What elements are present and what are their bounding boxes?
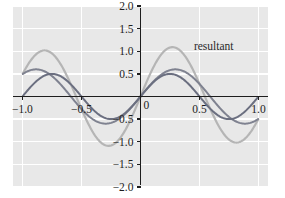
y-tick-label: −1.5 [113,158,134,170]
x-tick-label: 0.5 [192,103,207,115]
y-tick-label: −1.0 [113,136,134,148]
origin-tick-label: 0 [144,99,150,111]
chart-figure: −1.0−0.50.51.0 −2.0−1.5−1.0−0.50.51.01.5… [0,0,285,198]
annotation-resultant-label: resultant [194,40,234,52]
x-tick-label: −0.5 [71,103,92,115]
plot-canvas: −1.0−0.50.51.0 −2.0−1.5−1.0−0.50.51.01.5… [0,0,285,198]
y-tick-label: 0.5 [119,68,134,80]
y-tick-label: −0.5 [113,113,134,125]
x-tick-label: −1.0 [12,103,33,115]
x-tick-label: 1.0 [251,103,266,115]
y-tick-label: 2.0 [119,0,134,12]
y-tick-label: −2.0 [113,181,134,193]
y-tick-label: 1.5 [119,23,134,35]
y-tick-label: 1.0 [119,45,134,57]
chart-annotations: resultant [194,40,234,52]
